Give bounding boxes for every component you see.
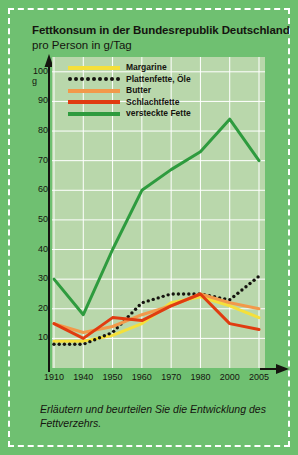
y-axis-tick: 50 (24, 215, 48, 224)
legend-label: Schlachtfette (126, 97, 179, 107)
legend-item: Butter (68, 85, 248, 97)
legend-item: versteckte Fette (68, 108, 248, 120)
y-axis-tick: 10 (24, 333, 48, 342)
y-axis-tick: 100 (24, 67, 48, 76)
x-axis-tick: 1940 (73, 372, 93, 382)
legend-color-swatch (68, 112, 120, 116)
legend-label: Plattenfette, Öle (126, 74, 191, 84)
y-axis-tick: 20 (24, 304, 48, 313)
x-axis-tick: 1960 (132, 372, 152, 382)
x-axis-tick: 1950 (103, 372, 123, 382)
chart-caption: Erläutern und beurteilen Sie die Entwick… (40, 402, 270, 430)
x-axis-tick: 1910 (44, 372, 64, 382)
x-axis-tick: 1980 (190, 372, 210, 382)
chart-title: Fettkonsum in der Bundesrepublik Deutsch… (32, 24, 290, 36)
legend-label: Butter (126, 85, 151, 95)
legend-dotted-swatch (68, 77, 120, 82)
chart-card: Fettkonsum in der Bundesrepublik Deutsch… (8, 8, 290, 447)
legend-item: Margarine (68, 62, 248, 74)
legend-color-swatch (68, 89, 120, 93)
y-axis-tick: 60 (24, 185, 48, 194)
y-axis-tick: 90 (24, 96, 48, 105)
y-axis-tick: 70 (24, 156, 48, 165)
x-axis-tick: 2005 (249, 372, 269, 382)
y-axis-tick: 40 (24, 245, 48, 254)
x-axis-tick-labels: 19101940195019601970198020002005 (10, 372, 292, 386)
y-axis-tick-labels: 102030405060708090100 (18, 10, 48, 430)
series-versteckte-fette (54, 119, 259, 315)
legend-color-swatch (68, 100, 120, 104)
chart-legend: MargarinePlattenfette, ÖleButterSchlacht… (68, 62, 248, 120)
x-axis-tick: 1970 (161, 372, 181, 382)
y-axis-tick: 30 (24, 274, 48, 283)
legend-item: Plattenfette, Öle (68, 74, 248, 86)
x-axis-tick: 2000 (220, 372, 240, 382)
legend-label: versteckte Fette (126, 108, 191, 118)
legend-color-swatch (68, 66, 120, 70)
legend-item: Schlachtfette (68, 97, 248, 109)
legend-label: Margarine (126, 62, 167, 72)
y-axis-tick: 80 (24, 126, 48, 135)
